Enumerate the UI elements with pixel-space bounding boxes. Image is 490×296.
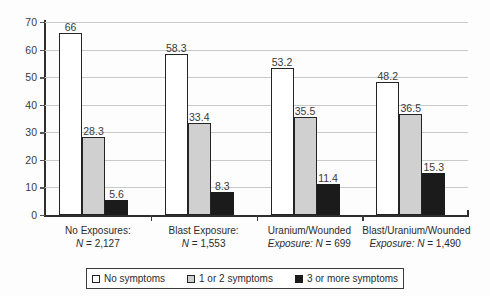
bar-group-2-series-2: 11.4 [317, 184, 340, 215]
bar-value-label: 35.5 [295, 105, 315, 117]
bar-group-1-series-1: 33.4 [188, 123, 211, 215]
bar-chart: 010203040506070 6628.35.658.333.48.353.2… [0, 0, 490, 296]
y-axis-label-0: 0 [31, 209, 37, 221]
y-axis-tick-0 [40, 215, 45, 216]
legend-item-label: No symptoms [104, 273, 165, 284]
bar-value-label: 48.2 [378, 70, 398, 82]
bar-group-2-series-1: 35.5 [294, 117, 317, 215]
y-axis-label-70: 70 [25, 16, 37, 28]
bar-group-0-series-1: 28.3 [82, 137, 105, 215]
category-label-line2: Exposure: N = 699 [257, 237, 363, 250]
category-label-line1: Blast Exposure: [151, 224, 257, 237]
legend-swatch-icon [187, 275, 195, 283]
bar-group-3-series-1: 36.5 [399, 114, 422, 215]
x-axis-category-label-0: No Exposures:N = 2,127 [45, 224, 151, 250]
y-axis-tick-60 [40, 50, 45, 51]
y-axis-tick-70 [40, 22, 45, 23]
bar-group-0-series-0: 66 [59, 33, 82, 215]
y-axis-label-20: 20 [25, 154, 37, 166]
bar-group-3-series-2: 15.3 [422, 173, 445, 215]
bar-value-label: 15.3 [424, 161, 444, 173]
bar-value-label: 58.3 [166, 42, 186, 54]
bar-value-label: 11.4 [318, 172, 338, 184]
y-axis-label-50: 50 [25, 71, 37, 83]
y-axis-label-10: 10 [25, 181, 37, 193]
category-label-line2: Exposure: N = 1,490 [362, 237, 468, 250]
legend-item-0[interactable]: No symptoms [92, 273, 165, 284]
category-label-line2: N = 2,127 [45, 237, 151, 250]
category-label-line1: Uranium/Wounded [257, 224, 363, 237]
x-axis-separator-2 [257, 215, 258, 221]
bar-value-label: 53.2 [272, 56, 292, 68]
legend-item-label: 3 or more symptoms [307, 273, 398, 284]
legend-swatch-icon [92, 275, 100, 283]
x-axis-separator-3 [362, 215, 363, 221]
legend-item-2[interactable]: 3 or more symptoms [295, 273, 398, 284]
bar-value-label: 28.3 [83, 125, 103, 137]
bar-group-1-series-2: 8.3 [211, 192, 234, 215]
plot-area: 010203040506070 6628.35.658.333.48.353.2… [45, 22, 468, 215]
y-axis-tick-30 [40, 132, 45, 133]
y-axis-tick-10 [40, 187, 45, 188]
gridline-60 [45, 50, 468, 51]
category-label-line1: No Exposures: [45, 224, 151, 237]
bar-group-0-series-2: 5.6 [105, 200, 128, 215]
category-label-line2: N = 1,553 [151, 237, 257, 250]
bar-group-3-series-0: 48.2 [376, 82, 399, 215]
legend-swatch-icon [295, 275, 303, 283]
gridline-70 [45, 22, 468, 23]
bar-value-label: 8.3 [215, 180, 230, 192]
legend-item-label: 1 or 2 symptoms [199, 273, 273, 284]
x-axis-separator-1 [151, 215, 152, 221]
y-axis-tick-20 [40, 160, 45, 161]
bar-value-label: 33.4 [189, 111, 209, 123]
x-axis-category-label-3: Blast/Uranium/WoundedExposure: N = 1,490 [362, 224, 468, 250]
category-label-line1: Blast/Uranium/Wounded [362, 224, 468, 237]
y-axis-tick-50 [40, 77, 45, 78]
bar-value-label: 66 [65, 21, 77, 33]
x-axis-category-label-1: Blast Exposure:N = 1,553 [151, 224, 257, 250]
y-axis-label-30: 30 [25, 126, 37, 138]
bar-group-1-series-0: 58.3 [165, 54, 188, 215]
legend-item-1[interactable]: 1 or 2 symptoms [187, 273, 273, 284]
y-axis-label-40: 40 [25, 99, 37, 111]
chart-legend: No symptoms1 or 2 symptoms3 or more symp… [86, 268, 404, 289]
bar-value-label: 36.5 [401, 102, 421, 114]
gridline-50 [45, 77, 468, 78]
x-axis-category-label-2: Uranium/WoundedExposure: N = 699 [257, 224, 363, 250]
bar-value-label: 5.6 [109, 188, 124, 200]
y-axis-label-60: 60 [25, 44, 37, 56]
bar-group-2-series-0: 53.2 [271, 68, 294, 215]
y-axis-tick-40 [40, 105, 45, 106]
